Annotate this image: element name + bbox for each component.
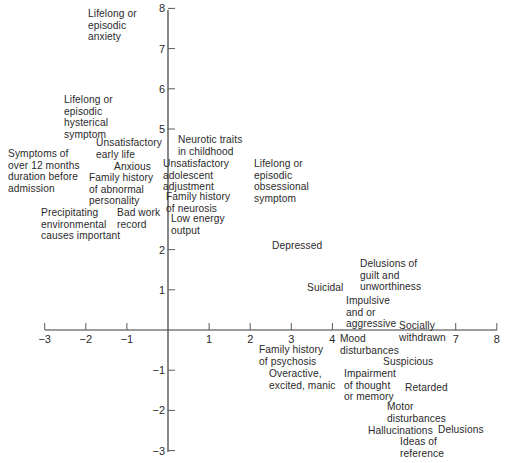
y-tick-label: −1 xyxy=(152,364,165,376)
point-label: Impulsive and or aggressive xyxy=(346,295,396,330)
point-label: Delusions of guilt and unworthiness xyxy=(360,258,421,293)
x-tick-label: 2 xyxy=(247,333,253,345)
x-tick-label: 1 xyxy=(206,333,212,345)
y-tick-label: 7 xyxy=(159,43,165,55)
point-label: Family history of psychosis xyxy=(259,344,323,367)
point-label: Anxious xyxy=(114,161,151,173)
y-tick-label: 8 xyxy=(159,2,165,14)
x-tick-label: 4 xyxy=(329,333,335,345)
point-label: Low energy output xyxy=(171,213,225,236)
x-tick-label: 7 xyxy=(453,333,459,345)
point-label: Family history of abnormal personality xyxy=(89,172,153,207)
point-label: Depressed xyxy=(272,240,322,252)
y-tick-label: −2 xyxy=(152,404,165,416)
point-label: Hallucinations xyxy=(368,425,433,437)
y-tick-label: 5 xyxy=(159,123,165,135)
point-label: Suicidal xyxy=(307,282,343,294)
point-label: Lifelong or episodic anxiety xyxy=(88,8,137,43)
point-label: Impairment of thought or memory xyxy=(344,368,396,403)
x-tick-label: −3 xyxy=(38,333,51,345)
point-label: Unsatisfactory adolescent adjustment xyxy=(163,158,229,193)
y-tick-label: 6 xyxy=(159,83,165,95)
point-label: Motor disturbances xyxy=(387,401,446,424)
point-label: Neurotic traits in childhood xyxy=(178,134,242,157)
point-label: Retarded xyxy=(405,382,448,394)
y-tick-label: 1 xyxy=(159,284,165,296)
point-label: Bad work record xyxy=(117,207,160,230)
y-tick-label: −3 xyxy=(152,445,165,457)
point-label: Precipitating environmental causes impor… xyxy=(41,207,120,242)
point-label: Mood disturbances xyxy=(340,333,399,356)
point-label: Suspicious xyxy=(383,356,433,368)
point-label: Unsatisfactory early life xyxy=(96,137,162,160)
point-label: Symptoms of over 12 months duration befo… xyxy=(8,148,80,194)
point-label: Ideas of reference xyxy=(400,436,444,459)
point-label: Lifelong or episodic hysterical symptom xyxy=(64,94,113,140)
y-tick-label: 2 xyxy=(159,244,165,256)
x-tick-label: −2 xyxy=(80,333,93,345)
point-label: Family history of neurosis xyxy=(166,191,230,214)
point-label: Delusions xyxy=(438,424,484,436)
x-tick-label: 8 xyxy=(494,333,500,345)
point-label: Socially withdrawn xyxy=(399,320,446,343)
point-label: Lifelong or episodic obsessional symptom xyxy=(254,158,309,204)
point-label: Overactive, excited, manic xyxy=(269,368,336,391)
x-tick-label: −1 xyxy=(121,333,134,345)
